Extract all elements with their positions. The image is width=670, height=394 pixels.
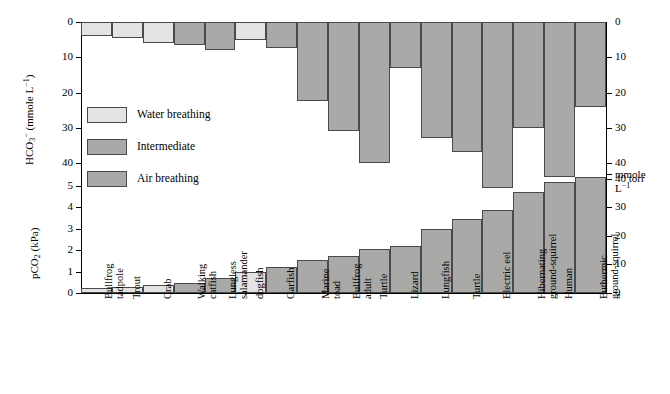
hco3-axis-title: HCO3− (mmole L−1) [22, 75, 37, 165]
xaxis-label-line: Trout [131, 276, 142, 299]
pco2-ticklabel-right-30: 30 [615, 201, 626, 212]
pco2-axis-zero [81, 293, 607, 294]
legend-label-intermediate: Intermediate [137, 140, 195, 152]
xaxis-label-line: Lizard [409, 272, 420, 299]
hco3-tick-left-20 [76, 93, 81, 94]
xaxis-label-line: Turtle [378, 274, 389, 299]
pco2-tick-left-2 [76, 250, 81, 251]
pco2-axis-left [81, 178, 82, 294]
xaxis-label-15: Human [563, 268, 574, 299]
bar-hco3-12 [452, 22, 483, 152]
pco2-ticklabel-left-4: 4 [51, 201, 73, 212]
pco2-tick-left-3 [76, 229, 81, 230]
hco3-tick-left-30 [76, 128, 81, 129]
hco3-ticklabel-right-0: 0 [615, 16, 621, 27]
pco2-ticklabel-left-0: 0 [51, 287, 73, 298]
bar-hco3-4 [205, 22, 236, 50]
hco3-tick-left-10 [76, 57, 81, 58]
pco2-ticklabel-left-5: 5 [51, 180, 73, 191]
hco3-ticklabel-left-0: 0 [51, 16, 73, 27]
xaxis-label-line: adult [362, 263, 373, 299]
pco2-ticklabel-right-40: 40 torr [615, 173, 645, 184]
bar-hco3-0 [81, 22, 112, 36]
pco2-ticklabel-left-2: 2 [51, 244, 73, 255]
xaxis-label-16: Euthermicground-squirrel [598, 234, 620, 299]
hco3-ticklabel-left-10: 10 [51, 51, 73, 62]
hco3-tick-right-40 [607, 163, 612, 164]
xaxis-label-line: tadpole [114, 263, 125, 299]
legend-swatch-water [87, 107, 127, 123]
xaxis-label-1: Trout [131, 276, 142, 299]
xaxis-label-line: salamander [238, 251, 249, 299]
bar-hco3-2 [143, 22, 174, 43]
hco3-ticklabel-right-40: 40 [615, 157, 626, 168]
xaxis-label-line: Bullfrog [351, 263, 362, 299]
pco2-tick-right-40 [607, 179, 612, 180]
xaxis-label-2: Crab [162, 279, 173, 299]
pco2-tick-left-0 [76, 293, 81, 294]
xaxis-label-line: toad [331, 269, 342, 299]
pco2-ticklabel-left-3: 3 [51, 223, 73, 234]
bar-hco3-6 [266, 22, 297, 48]
figure-canvas: 010203040010203040mmoleL−154321040 torr3… [0, 0, 670, 394]
hco3-tick-left-40 [76, 163, 81, 164]
hco3-ticklabel-right-20: 20 [615, 87, 626, 98]
xaxis-label-9: Turtle [378, 274, 389, 299]
xaxis-label-line: catfish [207, 264, 218, 299]
xaxis-label-8: Bullfrogadult [351, 263, 373, 299]
pco2-tick-right-30 [607, 207, 612, 208]
xaxis-label-line: ground-squirrel [547, 234, 558, 299]
xaxis-label-line: dogfish [254, 268, 265, 300]
xaxis-label-line: Bullfrog [103, 263, 114, 299]
pco2-tick-left-5 [76, 186, 81, 187]
bar-hco3-16 [575, 22, 606, 107]
xaxis-label-line: Crab [162, 279, 173, 299]
hco3-axis-left [81, 22, 82, 180]
hco3-tick-right-20 [607, 93, 612, 94]
xaxis-label-line: Human [563, 268, 574, 299]
bar-hco3-3 [174, 22, 205, 45]
xaxis-label-7: Marinetoad [320, 269, 342, 299]
bar-hco3-10 [390, 22, 421, 68]
xaxis-label-line: Euthermic [598, 234, 609, 299]
bar-hco3-7 [297, 22, 328, 101]
xaxis-label-4: Lunglesssalamander [227, 251, 249, 299]
hco3-ticklabel-left-40: 40 [51, 157, 73, 168]
xaxis-label-line: Walking [196, 264, 207, 299]
xaxis-label-line: Marine [320, 269, 331, 299]
pco2-tick-left-4 [76, 207, 81, 208]
xaxis-label-14: Hibernatingground-squirrel [536, 234, 558, 299]
bar-hco3-13 [482, 22, 513, 188]
hco3-ticklabel-right-10: 10 [615, 51, 626, 62]
bar-hco3-5 [235, 22, 266, 40]
legend-label-water: Water breathing [137, 108, 210, 120]
xaxis-label-10: Lizard [409, 272, 420, 299]
xaxis-label-line: Garfish [285, 268, 296, 300]
xaxis-label-line: Turtle [471, 274, 482, 299]
pco2-ticklabel-left-1: 1 [51, 266, 73, 277]
legend-swatch-intermediate [87, 139, 127, 155]
hco3-ticklabel-right-30: 30 [615, 122, 626, 133]
hco3-axis-right [606, 22, 607, 180]
xaxis-label-line: Hibernating [536, 234, 547, 299]
hco3-tick-right-10 [607, 57, 612, 58]
xaxis-label-13: Electric eel [501, 251, 512, 299]
xaxis-label-0: Bullfrogtadpole [103, 263, 125, 299]
bar-hco3-8 [328, 22, 359, 131]
xaxis-label-line: Lungfish [440, 261, 451, 299]
hco3-ticklabel-left-30: 30 [51, 122, 73, 133]
xaxis-label-line: ground-squirrel [609, 234, 620, 299]
xaxis-label-12: Turtle [471, 274, 482, 299]
legend-swatch-air [87, 171, 127, 187]
xaxis-label-line: Electric eel [501, 251, 512, 299]
bar-hco3-15 [544, 22, 575, 177]
bar-hco3-9 [359, 22, 390, 163]
pco2-tick-left-1 [76, 272, 81, 273]
bar-hco3-1 [112, 22, 143, 38]
bar-hco3-11 [421, 22, 452, 138]
pco2-axis-title: pCO2 (kPa) [28, 228, 42, 279]
xaxis-label-3: Walkingcatfish [196, 264, 218, 299]
hco3-tick-right-unit [607, 174, 612, 175]
bar-hco3-14 [513, 22, 544, 128]
hco3-tick-right-30 [607, 128, 612, 129]
